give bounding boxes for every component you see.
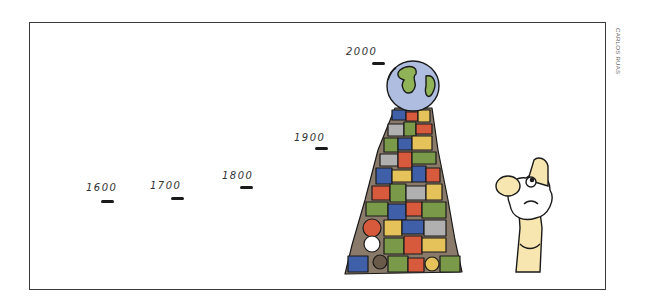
earth-globe xyxy=(387,61,439,111)
cartoon-illustration xyxy=(0,0,646,305)
old-man-character xyxy=(496,158,552,272)
consumer-goods-pile xyxy=(345,108,462,274)
